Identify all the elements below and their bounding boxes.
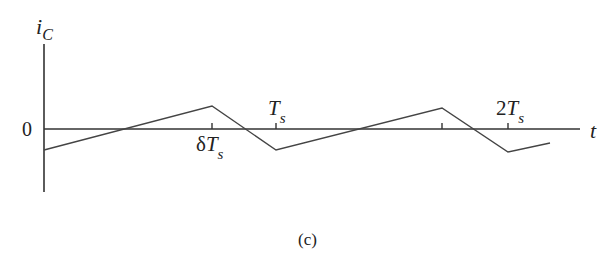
tick-label-main: 2T (496, 96, 518, 120)
figure-caption: (c) (298, 230, 317, 250)
tick-label-ts: Ts (268, 96, 286, 121)
tick-label-main: T (268, 96, 280, 120)
tick-label-sub: s (280, 110, 286, 126)
origin-label: 0 (22, 118, 32, 141)
x-axis-label: t (590, 118, 596, 144)
tick-label-sub: s (218, 146, 224, 162)
tick-label-delta-ts: δTs (196, 132, 223, 157)
tick-label-main: δT (196, 132, 218, 156)
y-axis-subscript: C (42, 26, 53, 43)
y-axis-label: iC (36, 14, 53, 40)
waveform-diagram (0, 0, 613, 263)
tick-label-2ts: 2Ts (496, 96, 524, 121)
tick-label-sub: s (518, 110, 524, 126)
